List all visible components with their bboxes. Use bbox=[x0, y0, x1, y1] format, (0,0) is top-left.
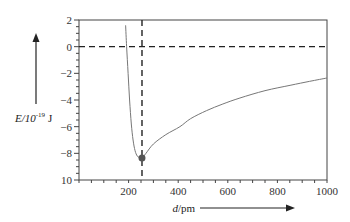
minimum-point bbox=[138, 155, 145, 162]
minor-ticks bbox=[74, 20, 327, 183]
y-tick-label: −6 bbox=[60, 121, 72, 133]
x-tick-label: 800 bbox=[269, 185, 286, 197]
plot-border bbox=[79, 20, 327, 180]
y-arrow-head-icon bbox=[33, 33, 40, 42]
plot-frame bbox=[79, 20, 327, 180]
y-axis-ticks: 20−2−4−6−810 bbox=[60, 14, 72, 186]
x-tick-label: 1000 bbox=[316, 185, 339, 197]
annotations bbox=[79, 20, 327, 180]
x-tick-label: 600 bbox=[220, 185, 237, 197]
x-tick-label: 200 bbox=[120, 185, 137, 197]
y-tick-label: −8 bbox=[60, 147, 72, 159]
x-axis-ticks: 2004006008001000 bbox=[120, 185, 338, 197]
y-axis-label: E/10-19 J bbox=[14, 111, 53, 124]
y-tick-label: 10 bbox=[61, 174, 73, 186]
energy-distance-chart: 20−2−4−6−810 2004006008001000 E/10-19 J … bbox=[0, 0, 350, 222]
x-arrow-head-icon bbox=[286, 205, 295, 212]
y-tick-label: 2 bbox=[67, 14, 73, 26]
energy-curve bbox=[126, 25, 327, 158]
y-tick-label: 0 bbox=[67, 41, 73, 53]
y-tick-label: −4 bbox=[60, 94, 72, 106]
x-tick-label: 400 bbox=[170, 185, 187, 197]
y-tick-label: −2 bbox=[60, 67, 72, 79]
x-axis-label: d/pm bbox=[172, 202, 195, 214]
